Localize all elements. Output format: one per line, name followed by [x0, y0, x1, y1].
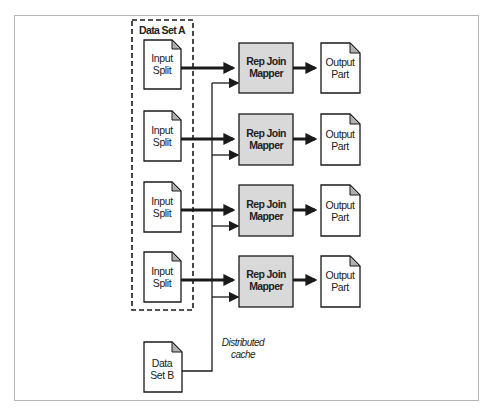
mapper-label-2: Mapper — [249, 210, 283, 222]
cache-label-line2: cache — [231, 349, 256, 360]
output-part-doc: Output Part — [321, 43, 360, 93]
cache-label-line1: Distributed — [222, 337, 265, 348]
mapper-label-1: Rep Join — [246, 268, 286, 280]
output-label-1: Output — [325, 128, 355, 140]
output-part-doc: Output Part — [321, 185, 360, 236]
row-2: Input Split Rep Join Mapper Output Part — [144, 111, 360, 165]
rep-join-mapper: Rep Join Mapper — [239, 43, 293, 93]
output-label-1: Output — [325, 56, 355, 68]
input-split-label-1: Input — [151, 124, 173, 136]
output-label-2: Part — [331, 281, 349, 293]
rep-join-mapper: Rep Join Mapper — [239, 114, 293, 165]
output-label-1: Output — [325, 199, 355, 211]
dataset-b-label-1: Data — [152, 357, 173, 369]
output-label-1: Output — [325, 269, 355, 281]
dataset-b-label-2: Set B — [150, 369, 174, 381]
input-split-label-2: Split — [153, 64, 172, 76]
input-split-doc: Input Split — [144, 182, 181, 232]
output-part-doc: Output Part — [321, 114, 360, 165]
rep-join-mapper: Rep Join Mapper — [239, 256, 293, 307]
output-label-2: Part — [331, 211, 349, 223]
rep-join-mapper: Rep Join Mapper — [239, 185, 293, 236]
input-split-doc: Input Split — [144, 40, 181, 89]
mapper-label-2: Mapper — [249, 139, 283, 151]
mapper-label-1: Rep Join — [246, 198, 286, 210]
input-split-label-1: Input — [151, 195, 173, 207]
input-split-label-2: Split — [153, 277, 172, 289]
input-split-label-1: Input — [151, 52, 173, 64]
input-split-doc: Input Split — [144, 252, 181, 302]
mapper-label-2: Mapper — [249, 280, 283, 292]
replicated-join-diagram: Data Set A Distributed cache Input Split… — [0, 0, 489, 410]
mapper-label-1: Rep Join — [246, 55, 286, 67]
output-part-doc: Output Part — [321, 256, 360, 307]
dataset-a-title: Data Set A — [139, 24, 186, 36]
mapper-label-1: Rep Join — [246, 127, 286, 139]
input-split-label-1: Input — [151, 265, 173, 277]
input-split-label-2: Split — [153, 136, 172, 148]
input-split-label-2: Split — [153, 207, 172, 219]
input-split-doc: Input Split — [144, 111, 181, 161]
mapper-label-2: Mapper — [249, 67, 283, 79]
row-4: Input Split Rep Join Mapper Output Part — [144, 252, 360, 307]
output-label-2: Part — [331, 68, 349, 80]
row-1: Input Split Rep Join Mapper Output Part — [144, 40, 360, 93]
row-3: Input Split Rep Join Mapper Output Part — [144, 182, 360, 236]
dataset-b-doc: Data Set B — [144, 342, 182, 392]
output-label-2: Part — [331, 140, 349, 152]
